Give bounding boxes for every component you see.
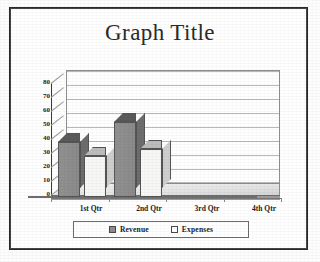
- x-label-2nd-qtr: 2nd Qtr: [119, 204, 179, 213]
- y-tick-40: 40: [28, 135, 50, 142]
- side-rung-80: [51, 73, 64, 84]
- x-label-3rd-qtr: 3rd Qtr: [177, 204, 237, 213]
- x-tick-0: [51, 198, 52, 202]
- gridline-80: [67, 71, 279, 72]
- gridline-30: [67, 141, 279, 142]
- bar-expenses-2nd-qtr: [140, 149, 162, 197]
- y-tick-30: 30: [28, 149, 50, 156]
- legend-label-expenses: Expenses: [182, 225, 213, 234]
- bar-front-face: [58, 142, 80, 197]
- expenses-swatch-icon: [171, 226, 178, 233]
- gridline-60: [67, 99, 279, 100]
- bar-front-face: [114, 122, 136, 197]
- y-tick-70: 70: [28, 93, 50, 100]
- x-tick-4: [281, 198, 282, 202]
- x-tick-3: [224, 198, 225, 202]
- chart-screenshot: Graph Title 80 70 60 50 40 30 20 10 0: [0, 0, 320, 262]
- gridline-70: [67, 85, 279, 86]
- chart-legend: Revenue Expenses: [73, 221, 249, 238]
- side-rung-60: [51, 101, 64, 112]
- x-axis-labels: 1st Qtr 2nd Qtr 3rd Qtr 4th Qtr: [51, 204, 291, 218]
- side-rung-70: [51, 87, 64, 98]
- x-tick-2: [166, 198, 167, 202]
- y-tick-20: 20: [28, 163, 50, 170]
- y-axis-labels: 80 70 60 50 40 30 20 10 0: [28, 70, 50, 194]
- y-tick-60: 60: [28, 107, 50, 114]
- gridline-40: [67, 127, 279, 128]
- legend-item-expenses: Expenses: [171, 225, 213, 234]
- y-tick-80: 80: [28, 79, 50, 86]
- legend-label-revenue: Revenue: [120, 225, 149, 234]
- bar-expenses-1st-qtr: [84, 156, 106, 197]
- bar-front-face: [140, 149, 162, 197]
- bar-revenue-1st-qtr: [58, 142, 80, 197]
- revenue-swatch-icon: [109, 226, 116, 233]
- x-label-4th-qtr: 4th Qtr: [234, 204, 294, 213]
- bar-revenue-2nd-qtr: [114, 122, 136, 197]
- gridline-50: [67, 113, 279, 114]
- chart-title: Graph Title: [0, 20, 320, 46]
- legend-item-revenue: Revenue: [109, 225, 149, 234]
- plot-area: 80 70 60 50 40 30 20 10 0: [28, 70, 290, 202]
- bar-front-face: [84, 156, 106, 197]
- x-tick-1: [109, 198, 110, 202]
- side-rung-50: [51, 115, 64, 126]
- x-label-1st-qtr: 1st Qtr: [61, 204, 121, 213]
- y-tick-10: 10: [28, 177, 50, 184]
- y-tick-50: 50: [28, 121, 50, 128]
